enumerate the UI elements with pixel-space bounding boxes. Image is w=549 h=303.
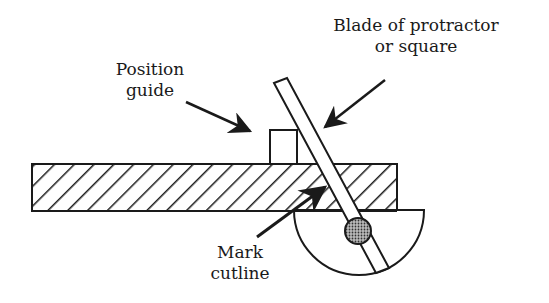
label-position-guide-line1: Position xyxy=(105,59,195,80)
label-mark-cutline: Mark cutline xyxy=(200,242,280,284)
label-blade-line2: or square xyxy=(318,36,514,57)
diagram: Position guide Blade of protractor or sq… xyxy=(0,0,549,303)
arrow-blade xyxy=(325,80,385,127)
arrow-position-guide xyxy=(186,102,250,131)
label-mark-cutline-line2: cutline xyxy=(200,263,280,284)
pivot-circle xyxy=(345,218,371,244)
position-guide-block xyxy=(270,130,297,164)
label-position-guide: Position guide xyxy=(105,59,195,101)
label-mark-cutline-line1: Mark xyxy=(200,242,280,263)
label-blade: Blade of protractor or square xyxy=(318,15,514,57)
label-position-guide-line2: guide xyxy=(105,80,195,101)
label-blade-line1: Blade of protractor xyxy=(318,15,514,36)
